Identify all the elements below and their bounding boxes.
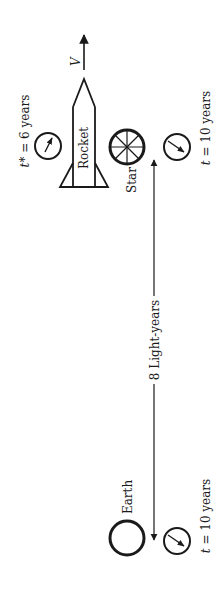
earth-clock-icon [164,528,190,554]
star-clock-label: t = 10 years [199,91,213,166]
distance-label: 8 Light-years [148,300,162,380]
velocity-label: V [69,56,83,66]
rocket-clock-icon [35,133,61,159]
rocket-clock-label: t* = 6 years [18,95,32,168]
earth-label: Earth [121,480,135,514]
star-clock-icon [164,134,190,160]
earth-clock-label: t = 10 years [199,479,213,554]
rocket-label: Rocket [77,127,91,169]
star-label: Star [125,167,139,193]
relativity-diagram: V Rocket t* = 6 years Star t = 10 years … [0,0,224,589]
star-icon [110,130,144,164]
earth-icon [110,521,144,555]
